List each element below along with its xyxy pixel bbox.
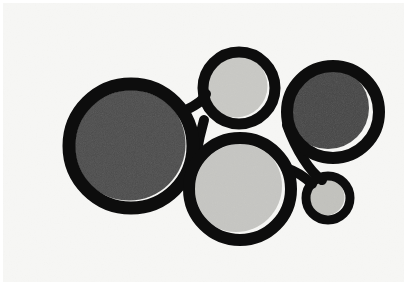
abstract-circles-artwork [0, 0, 407, 285]
artwork-canvas [0, 0, 407, 285]
